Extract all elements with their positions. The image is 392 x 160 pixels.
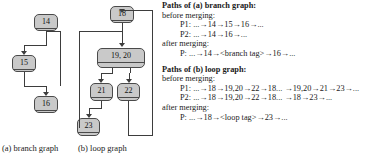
loop-node-19-20-label: 19, 20: [98, 49, 144, 62]
loop-edge-back-rail-h: [79, 31, 123, 32]
loop-after-label: after merging:: [162, 103, 392, 113]
loop-edge-1920-22-arrow: [126, 79, 132, 83]
node-footer: [35, 28, 57, 30]
loop-edge-21-23-seg-v: [101, 101, 102, 108]
branch-before-path-1: P1: ...→14→15→16→...: [162, 20, 392, 30]
branch-edge-14-15-seg-v: [46, 31, 47, 45]
loop-before-path-2: P2: ...→18→19,20→22→18... →18→23→...: [162, 93, 392, 103]
branch-section-heading: Paths of (a) branch graph:: [162, 1, 392, 11]
loop-edge-18-1920-arrow: [119, 43, 125, 47]
loop-before-path-1: P1: ...→18→19,20→22→18... →19,20→21→23→.…: [162, 84, 392, 94]
node-footer: [91, 97, 112, 100]
branch-edge-15-16-seg-h: [24, 86, 47, 87]
branch-after-label: after merging:: [162, 39, 392, 49]
branch-edge-14-16-seg-v: [60, 31, 61, 86]
node-footer: [35, 110, 57, 112]
branch-graph-caption: (a) branch graph: [2, 143, 58, 153]
graph-panel: 14 15 16 (a) branch graph 18: [0, 0, 160, 160]
loop-edge-22-18-seg-v: [152, 10, 153, 135]
loop-edge-21-23-seg-h: [89, 108, 102, 109]
branch-node-14: 14: [34, 14, 58, 31]
loop-node-21: 21: [90, 83, 113, 101]
loop-node-21-label: 21: [91, 84, 112, 97]
branch-node-15-label: 15: [13, 56, 35, 69]
node-footer: [98, 62, 144, 67]
loop-edge-22-18-seg-v-down: [128, 101, 129, 136]
loop-section-heading: Paths of (b) loop graph:: [162, 65, 392, 75]
loop-edge-back-rail-v: [79, 31, 80, 128]
branch-edge-15-16-arrow: [43, 92, 49, 96]
node-footer: [118, 97, 139, 100]
loop-before-label: before merging:: [162, 74, 392, 84]
node-footer: [111, 20, 133, 22]
loop-edge-1920-22-seg-v: [130, 68, 131, 73]
loop-edge-18-1920: [122, 23, 123, 44]
loop-after-path-1: P: ...→18→<loop tag>→23→...: [162, 113, 392, 123]
branch-before-label: before merging:: [162, 11, 392, 21]
branch-node-16: 16: [34, 96, 58, 113]
loop-edge-1920-21-seg-h: [101, 73, 113, 74]
branch-after-path-1: P: ...→14→<branch tag>→16→...: [162, 49, 392, 59]
branch-edge-14-15-seg-h: [24, 45, 47, 46]
figure-root: 14 15 16 (a) branch graph 18: [0, 0, 392, 160]
loop-node-19-20: 19, 20: [97, 48, 145, 68]
loop-node-23: 23: [77, 118, 100, 136]
loop-node-22: 22: [117, 83, 140, 101]
branch-node-16-label: 16: [35, 97, 57, 110]
branch-node-14-label: 14: [35, 15, 57, 28]
paths-text-panel: Paths of (a) branch graph: before mergin…: [162, 1, 392, 159]
loop-edge-22-18-seg-h-bottom: [128, 135, 153, 136]
loop-edge-21-23-arrow: [86, 114, 92, 118]
loop-graph-caption: (b) loop graph: [78, 143, 127, 153]
branch-edge-14-15-arrow: [21, 51, 27, 55]
node-footer: [13, 69, 35, 71]
loop-edge-22-18-arrow: [119, 9, 125, 13]
branch-before-path-2: P2: ...→14→16→...: [162, 30, 392, 40]
loop-node-22-label: 22: [118, 84, 139, 97]
node-footer: [78, 132, 99, 135]
branch-edge-15-16-seg-v: [24, 72, 25, 86]
loop-node-23-label: 23: [78, 119, 99, 132]
branch-node-15: 15: [12, 55, 36, 72]
loop-edge-1920-21-arrow: [98, 79, 104, 83]
branch-edge-14-16-seg-h: [47, 31, 61, 32]
loop-edge-22-18-seg-h-top: [123, 10, 153, 11]
